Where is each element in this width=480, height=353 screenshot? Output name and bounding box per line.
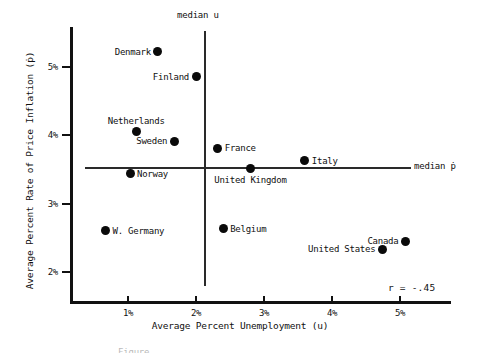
data-point	[246, 164, 255, 173]
data-point-label: Sweden	[136, 136, 167, 146]
data-point	[170, 137, 179, 146]
median-u-reference-line	[204, 31, 206, 286]
y-axis-tick	[62, 66, 71, 68]
data-point-label: United States	[308, 244, 375, 254]
y-axis-tick	[62, 271, 71, 273]
data-point	[378, 245, 387, 254]
y-axis-tick-label: 2%	[34, 267, 58, 277]
data-point	[126, 169, 135, 178]
x-axis-tick	[195, 296, 197, 303]
x-axis-tick	[263, 296, 265, 303]
data-point	[101, 226, 110, 235]
data-point-label: United Kingdom	[214, 175, 286, 185]
x-axis-tick	[127, 296, 129, 303]
median-u-label: median u	[177, 10, 219, 20]
data-point	[401, 237, 410, 246]
data-point	[219, 224, 228, 233]
y-axis-tick-label: 5%	[34, 62, 58, 72]
data-point-label: Norway	[137, 169, 168, 179]
data-point-label: France	[225, 143, 256, 153]
x-axis-tick	[399, 296, 401, 303]
x-axis-title: Average Percent Unemployment (u)	[0, 320, 480, 331]
x-axis-tick-label: 3%	[251, 308, 277, 318]
data-point	[213, 144, 222, 153]
y-axis-title: Average Percent Rate of Price Inflation …	[24, 21, 35, 321]
data-point	[300, 156, 309, 165]
data-point	[192, 72, 201, 81]
data-point-label: Finland	[153, 72, 189, 82]
figure-caption-cropped: Figure	[118, 347, 358, 353]
data-point-label: Denmark	[115, 47, 151, 57]
y-axis-tick	[62, 203, 71, 205]
x-axis-tick-label: 1%	[115, 308, 141, 318]
data-point-label: Italy	[312, 156, 338, 166]
y-axis-tick-label: 4%	[34, 130, 58, 140]
data-point-label: Belgium	[230, 224, 266, 234]
data-point-label: W. Germany	[113, 226, 165, 236]
data-point-label: Netherlands	[108, 116, 165, 126]
y-axis-tick	[62, 134, 71, 136]
data-point	[153, 47, 162, 56]
x-axis-tick	[331, 296, 333, 303]
median-p-label: median ṗ	[414, 161, 456, 171]
correlation-annotation: r = -.45	[388, 282, 435, 293]
data-point	[132, 127, 141, 136]
x-axis-tick-label: 4%	[319, 308, 345, 318]
y-axis-tick-label: 3%	[34, 199, 58, 209]
scatter-plot-figure: 1%2%3%4%5%2%3%4%5% median u median ṗ De…	[0, 0, 480, 353]
x-axis-tick-label: 2%	[183, 308, 209, 318]
y-axis-line	[70, 27, 73, 303]
x-axis-tick-label: 5%	[387, 308, 413, 318]
